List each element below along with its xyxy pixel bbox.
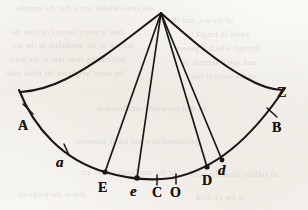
point-label-e: e (130, 184, 137, 199)
chord-apex-to-e (137, 13, 161, 178)
point-label-E: E (98, 181, 107, 195)
point-label-d: d (218, 163, 226, 178)
chord-apex-to-d (161, 13, 222, 160)
node-point-e (134, 175, 140, 181)
chord-apex-to-D (161, 13, 207, 167)
point-label-a: a (56, 155, 64, 170)
point-label-O: O (170, 186, 181, 200)
node-point-D (204, 164, 209, 169)
point-label-D: D (202, 174, 212, 188)
diagram-ink-layer (0, 0, 308, 210)
chord-apex-to-E (105, 13, 161, 172)
node-point-E (102, 169, 107, 174)
point-label-A: A (18, 119, 28, 133)
upper-curve-left-branch (21, 13, 161, 92)
upper-curve-right-branch (161, 13, 283, 90)
tick-mark-A (23, 104, 33, 114)
point-label-B: B (272, 121, 281, 135)
point-label-Z: Z (277, 86, 286, 100)
figure-root: the considerable force that the impulseo… (0, 0, 308, 210)
tick-mark-B (267, 108, 277, 117)
point-label-C: C (152, 186, 162, 200)
